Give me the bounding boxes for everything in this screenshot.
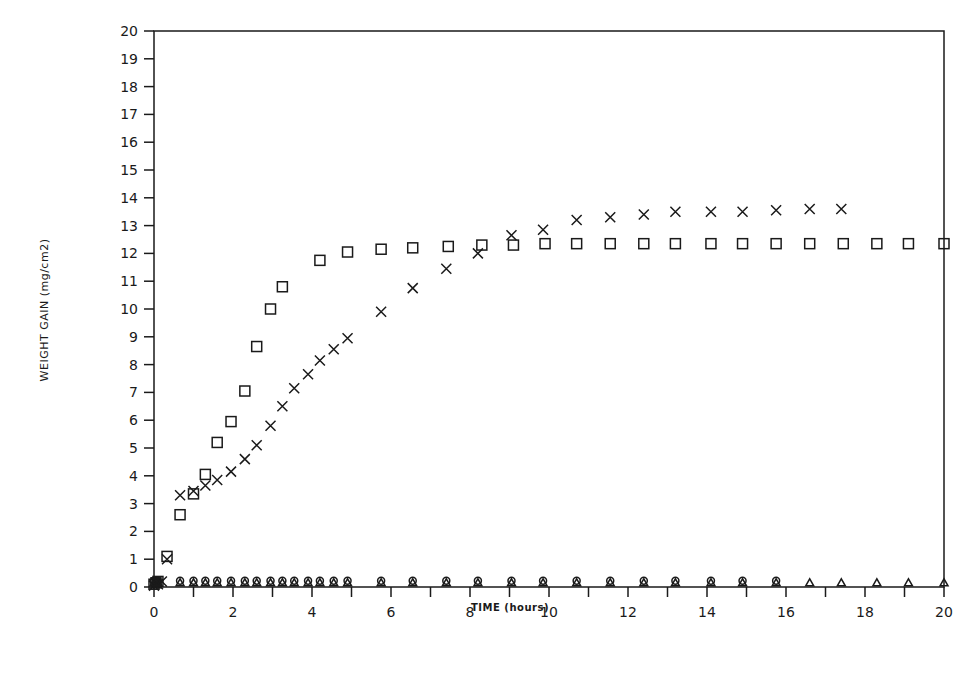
y-tick-label: 12: [120, 245, 138, 261]
x-tick-label: 14: [698, 604, 716, 620]
square-marker: [903, 239, 913, 249]
triangle-marker: [806, 579, 814, 586]
square-marker: [277, 282, 287, 292]
cross-marker: [441, 264, 451, 274]
square-marker: [670, 239, 680, 249]
y-tick-label: 2: [129, 523, 138, 539]
data-markers: [149, 204, 949, 591]
square-marker: [771, 239, 781, 249]
square-marker: [706, 239, 716, 249]
y-tick-label: 11: [120, 273, 138, 289]
cross-marker: [189, 486, 199, 496]
square-marker: [738, 239, 748, 249]
square-marker: [175, 510, 185, 520]
y-tick-label: 0: [129, 579, 138, 595]
cross-marker: [605, 212, 615, 222]
y-tick-label: 10: [120, 301, 138, 317]
cross-marker: [670, 207, 680, 217]
x-tick-label: 12: [619, 604, 637, 620]
square-marker: [376, 244, 386, 254]
square-marker: [343, 247, 353, 257]
cross-marker: [639, 209, 649, 219]
y-tick-label: 7: [129, 384, 138, 400]
cross-marker: [506, 230, 516, 240]
cross-marker: [240, 454, 250, 464]
y-tick-label: 20: [120, 23, 138, 39]
y-tick-label: 6: [129, 412, 138, 428]
x-axis: 02468101214161820: [150, 587, 953, 620]
y-tick-label: 13: [120, 218, 138, 234]
square-marker: [315, 255, 325, 265]
square-marker: [605, 239, 615, 249]
cross-marker: [572, 215, 582, 225]
cross-marker: [538, 225, 548, 235]
cross-marker: [805, 204, 815, 214]
square-marker: [200, 469, 210, 479]
y-tick-label: 18: [120, 79, 138, 95]
square-marker: [805, 239, 815, 249]
x-tick-label: 2: [229, 604, 238, 620]
y-tick-label: 1: [129, 551, 138, 567]
cross-marker: [266, 421, 276, 431]
y-tick-label: 16: [120, 134, 138, 150]
y-tick-label: 19: [120, 51, 138, 67]
square-marker: [540, 239, 550, 249]
square-marker: [226, 417, 236, 427]
square-marker: [266, 304, 276, 314]
cross-marker: [252, 440, 262, 450]
series-cross: [149, 204, 846, 591]
cross-marker: [343, 333, 353, 343]
square-marker: [872, 239, 882, 249]
x-tick-label: 16: [777, 604, 795, 620]
square-marker: [443, 241, 453, 251]
square-marker: [240, 386, 250, 396]
cross-marker: [303, 369, 313, 379]
triangle-marker: [837, 579, 845, 586]
cross-marker: [738, 207, 748, 217]
cross-marker: [200, 481, 210, 491]
cross-marker: [175, 490, 185, 500]
y-tick-label: 17: [120, 106, 138, 122]
y-axis: 01234567891011121314151617181920: [120, 23, 154, 595]
cross-marker: [706, 207, 716, 217]
x-axis-title: TIME (hours): [471, 602, 549, 613]
cross-marker: [771, 205, 781, 215]
square-marker: [572, 239, 582, 249]
cross-marker: [226, 467, 236, 477]
plot-border: [154, 31, 944, 587]
square-marker: [838, 239, 848, 249]
y-tick-label: 9: [129, 329, 138, 345]
triangle-marker: [873, 579, 881, 586]
y-tick-label: 4: [129, 468, 138, 484]
cross-marker: [315, 355, 325, 365]
y-tick-label: 3: [129, 496, 138, 512]
x-tick-label: 6: [387, 604, 396, 620]
square-marker: [212, 437, 222, 447]
cross-marker: [162, 554, 172, 564]
series-square: [149, 239, 949, 590]
square-marker: [508, 240, 518, 250]
cross-marker: [289, 383, 299, 393]
y-tick-label: 15: [120, 162, 138, 178]
cross-marker: [376, 307, 386, 317]
cross-marker: [408, 283, 418, 293]
x-tick-label: 0: [150, 604, 159, 620]
cross-marker: [836, 204, 846, 214]
cross-marker: [277, 401, 287, 411]
x-tick-label: 18: [856, 604, 874, 620]
square-marker: [252, 342, 262, 352]
square-marker: [408, 243, 418, 253]
square-marker: [639, 239, 649, 249]
x-tick-label: 20: [935, 604, 953, 620]
triangle-marker: [904, 579, 912, 586]
cross-marker: [329, 344, 339, 354]
y-tick-label: 8: [129, 357, 138, 373]
cross-marker: [212, 475, 222, 485]
y-tick-label: 14: [120, 190, 138, 206]
x-tick-label: 4: [308, 604, 317, 620]
y-tick-label: 5: [129, 440, 138, 456]
plot-frame: [154, 31, 944, 587]
y-axis-title: WEIGHT GAIN (mg/cm2): [38, 239, 51, 382]
weight-gain-chart: 01234567891011121314151617181920 0246810…: [0, 0, 980, 673]
